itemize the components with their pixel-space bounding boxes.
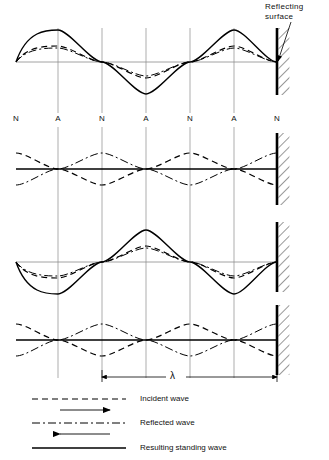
legend-label-incident: Incident wave bbox=[140, 394, 189, 403]
wall-hatching-panel-2 bbox=[278, 133, 289, 205]
panel-1-in-phase bbox=[16, 22, 291, 95]
wall-hatching-panel-3 bbox=[278, 222, 289, 292]
standing-wave-diagram bbox=[0, 0, 329, 460]
legend-label-reflected: Reflected wave bbox=[140, 418, 195, 427]
reflecting-surface-label: Reflecting surface bbox=[265, 2, 304, 22]
panel-2-out-of-phase bbox=[16, 133, 289, 205]
gridlines bbox=[58, 28, 234, 378]
wavelength-dimension bbox=[102, 370, 277, 382]
reflecting-surface-label-line2: surface bbox=[265, 12, 304, 22]
panel-4-out-of-phase bbox=[16, 305, 289, 375]
antinode-label-a3: A bbox=[231, 114, 236, 123]
legend-label-standing-wave: Resulting standing wave bbox=[140, 443, 227, 452]
antinode-label-a2: A bbox=[143, 114, 148, 123]
antinode-label-a1: A bbox=[55, 114, 60, 123]
wavelength-label: λ bbox=[170, 370, 175, 381]
reflecting-surface-label-line1: Reflecting bbox=[265, 2, 304, 12]
wall-hatching-panel-1 bbox=[278, 28, 289, 95]
node-label-n4: N bbox=[274, 114, 280, 123]
node-label-n3: N bbox=[187, 114, 193, 123]
node-label-n2: N bbox=[99, 114, 105, 123]
wall-hatching-panel-4 bbox=[278, 305, 289, 375]
panel-3-in-phase-inverted bbox=[16, 222, 289, 294]
node-label-n1: N bbox=[13, 114, 19, 123]
legend-samples bbox=[32, 399, 126, 448]
